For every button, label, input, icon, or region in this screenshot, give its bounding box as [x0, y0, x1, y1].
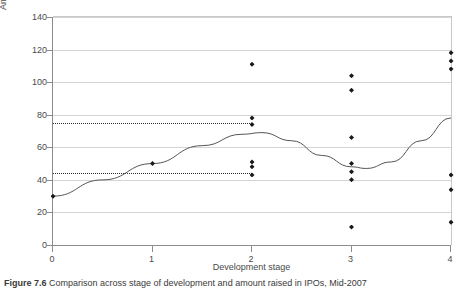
x-tick-2: [251, 246, 252, 252]
y-tick-label-60: 60: [7, 142, 47, 152]
figure-caption-label: Figure 7.6: [4, 278, 47, 288]
trend-curve-path: [53, 118, 451, 196]
figure-caption: Figure 7.6 Comparison across stage of de…: [4, 278, 462, 289]
y-tick-label-80: 80: [7, 110, 47, 120]
x-tick-3: [351, 246, 352, 252]
y-tick-label-20: 20: [7, 207, 47, 217]
plot-area: [52, 17, 451, 246]
x-tick-0: [52, 246, 53, 252]
y-axis-labels: 020406080100120140: [0, 17, 47, 245]
x-axis-title: Development stage: [52, 262, 451, 272]
figure-caption-text: Comparison across stage of development a…: [49, 278, 367, 288]
y-tick-label-100: 100: [7, 77, 47, 87]
y-tick-label-140: 140: [7, 12, 47, 22]
y-tick-label-120: 120: [7, 45, 47, 55]
x-tick-4: [450, 246, 451, 252]
x-tick-1: [152, 246, 153, 252]
y-tick-label-40: 40: [7, 175, 47, 185]
y-tick-label-0: 0: [7, 240, 47, 250]
fitted-trend-curve: [53, 17, 451, 245]
